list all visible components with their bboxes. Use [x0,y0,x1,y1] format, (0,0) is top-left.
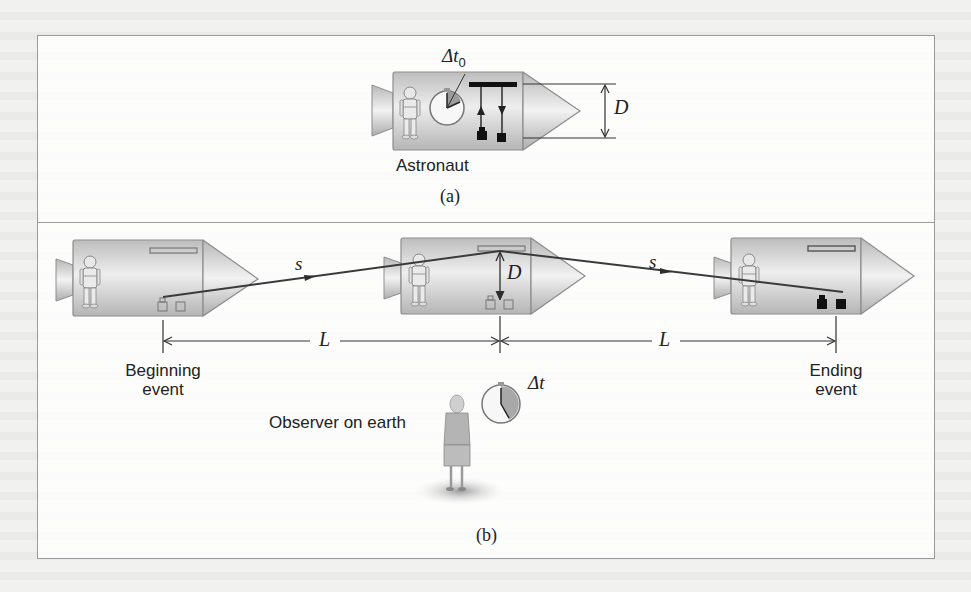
ending-event-line2: event [810,380,863,399]
delta-t-subscript: 0 [458,55,465,70]
length-label-right: L [659,330,670,349]
rocket-b-beginning [56,240,258,316]
time-dilation-diagram [0,0,971,592]
length-label-left: L [319,330,330,349]
length-dimension [163,316,836,353]
stopwatch-earth-icon [482,382,520,423]
beginning-event-line2: event [125,380,201,399]
clock-label-b: Δt [528,373,544,392]
distance-label-b: D [507,263,521,282]
beginning-event-label: Beginning event [125,361,201,399]
rocket-b-middle [384,238,585,314]
observer-label: Observer on earth [269,413,406,432]
rocket-b-ending [714,238,914,314]
delta-t-symbol: Δt [442,45,458,66]
beginning-event-line1: Beginning [125,361,201,380]
caption-a: (a) [440,187,460,206]
ending-event-label: Ending event [810,361,863,399]
ending-event-line1: Ending [810,361,863,380]
path-label-left: s [295,254,302,273]
caption-b: (b) [476,526,497,545]
astronaut-label: Astronaut [396,156,469,175]
path-label-right: s [649,252,656,271]
distance-label-a: D [614,98,628,117]
clock-label-a: Δt0 [442,46,466,72]
